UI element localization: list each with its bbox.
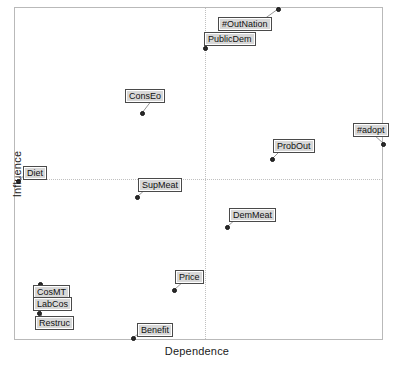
point-label-publicdem[interactable]: PublicDem [204,32,256,46]
point-label-adopt[interactable]: #adopt [353,123,389,137]
data-point-outnation[interactable] [276,7,281,12]
horizontal-divider-line [15,179,382,180]
point-label-benefit[interactable]: Benefit [137,323,173,337]
scatter-chart-figure: #OutNation PublicDem ConsEo #adopt ProbO… [0,0,394,365]
leader-lines [15,8,384,341]
point-label-supmeat[interactable]: SupMeat [138,178,182,192]
point-label-conseo[interactable]: ConsEo [125,89,165,103]
data-point-probout[interactable] [270,157,275,162]
data-point-supmeat[interactable] [135,195,140,200]
data-point-publicdem[interactable] [203,46,208,51]
point-label-diet[interactable]: Diet [23,166,47,180]
point-label-price[interactable]: Price [175,270,204,284]
point-label-labcos[interactable]: LabCos [33,297,72,311]
data-point-adopt[interactable] [381,142,386,147]
data-point-benefit[interactable] [131,336,136,341]
vertical-divider-line [205,8,206,339]
y-axis-title: Influence [11,129,23,219]
data-point-labcos[interactable] [37,311,42,316]
data-point-price[interactable] [172,288,177,293]
data-point-demmeat[interactable] [225,225,230,230]
point-label-outnation[interactable]: #OutNation [218,17,272,31]
point-label-probout[interactable]: ProbOut [273,139,315,153]
x-axis-title: Dependence [0,345,394,357]
plot-area: #OutNation PublicDem ConsEo #adopt ProbO… [14,7,383,340]
point-label-demmeat[interactable]: DemMeat [229,208,276,222]
data-point-conseo[interactable] [140,111,145,116]
point-label-restruc[interactable]: Restruc [35,316,74,330]
